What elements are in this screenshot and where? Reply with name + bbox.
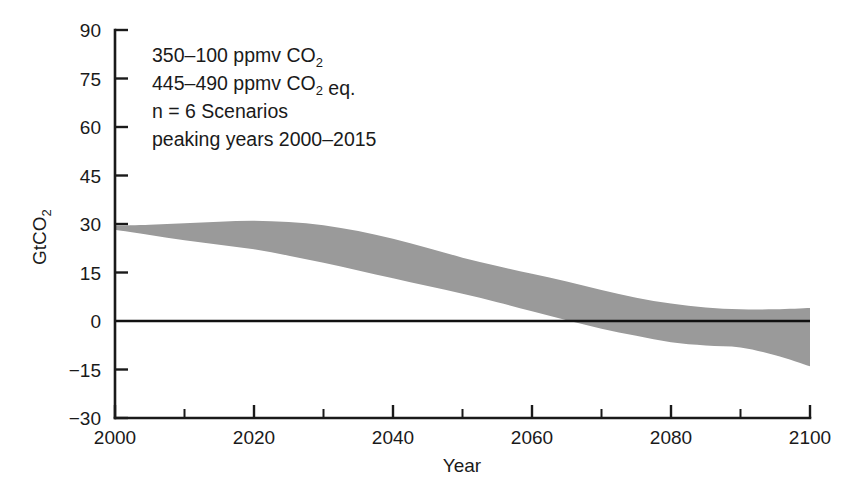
x-tick-label: 2040 xyxy=(372,427,414,448)
svg-text:GtCO2: GtCO2 xyxy=(29,209,54,265)
y-tick-label: −30 xyxy=(69,408,101,429)
x-tick-label: 2100 xyxy=(789,427,831,448)
x-axis-title: Year xyxy=(443,455,482,476)
chart-canvas: −30−150153045607590 20002020204020602080… xyxy=(0,0,852,502)
y-tick-label: 0 xyxy=(90,311,101,332)
y-tick-label: 45 xyxy=(80,166,101,187)
x-tick-label: 2000 xyxy=(94,427,136,448)
y-tick-label: −15 xyxy=(69,360,101,381)
y-tick-label: 75 xyxy=(80,69,101,90)
y-tick-label: 90 xyxy=(80,20,101,41)
x-axis-tick-labels: 200020202040206020802100 xyxy=(94,427,831,448)
x-axis-ticks xyxy=(115,405,810,418)
emissions-band-area xyxy=(115,221,810,367)
y-tick-label: 15 xyxy=(80,263,101,284)
scenario-annotation: 350–100 ppmv CO2445–490 ppmv CO2 eq.n = … xyxy=(152,44,377,150)
y-axis-tick-labels: −30−150153045607590 xyxy=(69,20,101,429)
y-tick-label: 60 xyxy=(80,117,101,138)
y-axis-title-subscript: 2 xyxy=(39,209,54,216)
y-tick-label: 30 xyxy=(80,214,101,235)
x-tick-label: 2020 xyxy=(233,427,275,448)
y-axis-ticks xyxy=(115,30,128,418)
x-tick-label: 2060 xyxy=(511,427,553,448)
emissions-pathway-chart: −30−150153045607590 20002020204020602080… xyxy=(0,0,852,502)
y-axis-title: GtCO2 xyxy=(29,209,54,265)
x-tick-label: 2080 xyxy=(650,427,692,448)
annotation-line: 350–100 ppmv CO2 xyxy=(152,44,323,70)
y-axis-title-base: GtCO xyxy=(29,216,50,265)
annotation-line: n = 6 Scenarios xyxy=(152,100,288,122)
annotation-line: 445–490 ppmv CO2 eq. xyxy=(152,72,355,99)
annotation-line: peaking years 2000–2015 xyxy=(152,128,377,150)
